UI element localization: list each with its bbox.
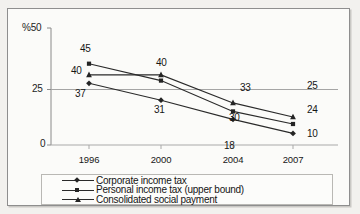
marker-diamond-1996 [86, 80, 92, 86]
data-label-consolidated-1996: 40 [71, 65, 82, 76]
y-axis-label-zero: 0 [40, 138, 45, 149]
square-marker-icon [60, 186, 96, 195]
marker-square-2000 [159, 79, 163, 83]
data-label-corporate-2007: 10 [307, 128, 318, 139]
data-label-corporate-2000: 31 [154, 104, 165, 115]
data-label-corporate-2004: 18 [224, 140, 235, 151]
chart-frame: %50 25 0 45 40 37 40 31 33 30 18 25 24 1… [7, 8, 350, 206]
x-axis-tick-1996: 1996 [69, 154, 109, 165]
legend-item-consolidated-social-payment[interactable]: Consolidated social payment [60, 195, 332, 205]
data-label-corporate-1996: 37 [75, 88, 86, 99]
marker-diamond-2007 [290, 131, 296, 137]
data-label-personal-2007: 24 [307, 104, 318, 115]
marker-diamond-2000 [158, 97, 164, 103]
data-label-consolidated-2004: 33 [240, 82, 251, 93]
x-axis-tick-2004: 2004 [213, 154, 253, 165]
y-axis-label-mid: 25 [32, 83, 43, 94]
diamond-marker-icon [60, 176, 96, 185]
y-axis-label-top: %50 [22, 22, 41, 33]
data-label-personal-1996: 45 [80, 43, 91, 54]
data-label-personal-2004: 30 [229, 112, 240, 123]
marker-square-2007 [291, 122, 295, 126]
chart-legend: Corporate income tax Personal income tax… [41, 174, 333, 205]
series-line-consolidated-social-payment [89, 75, 293, 117]
triangle-marker-icon [60, 195, 96, 204]
data-label-2000-upper: 40 [156, 57, 167, 68]
data-label-consolidated-2007: 25 [307, 80, 318, 91]
series-line-personal-income-tax [89, 64, 293, 124]
marker-square-1996 [87, 62, 91, 66]
legend-label-consolidated-social-payment: Consolidated social payment [96, 195, 217, 205]
x-axis-tick-2000: 2000 [141, 154, 181, 165]
series-line-corporate-income-tax-path [89, 83, 293, 133]
x-axis-tick-2007: 2007 [273, 154, 313, 165]
